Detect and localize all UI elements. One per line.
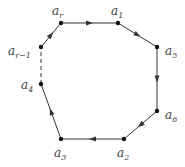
node-label-a2: a2 (117, 146, 129, 162)
node-ar1 (39, 45, 43, 49)
node-label-a6: a6 (165, 108, 177, 124)
node-label-ar1: ar−1 (8, 44, 31, 60)
node-a1 (116, 21, 120, 25)
node-label-ar: ar (52, 4, 64, 20)
arrow-icon (86, 21, 93, 26)
node-a2 (122, 137, 126, 141)
node-label-a3: a3 (54, 146, 66, 162)
arrow-icon (155, 76, 160, 83)
arrow-icon (89, 137, 96, 142)
node-a4 (39, 82, 43, 86)
node-a3 (59, 137, 63, 141)
node-label-a4: a4 (21, 78, 33, 94)
arrow-icon (133, 31, 142, 39)
node-ar (59, 21, 63, 25)
node-label-a1: a1 (111, 4, 123, 20)
node-a5 (155, 45, 159, 49)
node-a6 (155, 109, 159, 113)
cycle-diagram: ara1a5a6a2a3a4ar−1 (0, 0, 185, 167)
edges-group (41, 21, 160, 142)
arrow-icon (47, 107, 54, 115)
node-label-a5: a5 (165, 44, 177, 60)
